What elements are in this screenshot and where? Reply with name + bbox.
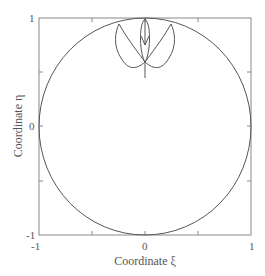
- trajectory-curve: [116, 19, 175, 78]
- plot-frame: [39, 18, 251, 235]
- y-axis-label: Coordinate η: [11, 95, 25, 158]
- x-tick-label-mid: 0: [142, 240, 148, 252]
- unit-circle: [39, 18, 251, 235]
- y-tick-label-mid: 0: [29, 120, 35, 132]
- y-tick-label-max: 1: [29, 12, 35, 24]
- x-tick-label-max: 1: [249, 240, 255, 252]
- x-axis-label: Coordinate ξ: [114, 254, 176, 268]
- y-tick-label-min: -1: [26, 229, 35, 241]
- chart-figure: -1 0 1 1 0 -1 Coordinate ξ Coordinate η: [0, 0, 265, 276]
- x-ticks: [92, 18, 198, 235]
- y-ticks: [39, 72, 251, 181]
- x-tick-label-min: -1: [31, 240, 40, 252]
